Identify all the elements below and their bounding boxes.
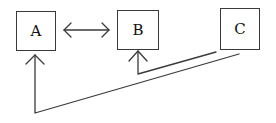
node-c-label: C <box>234 20 245 38</box>
node-c: C <box>220 8 260 50</box>
node-a: A <box>16 11 56 51</box>
edge-c-to-a-arrow <box>26 54 239 113</box>
node-b: B <box>117 10 159 50</box>
node-b-label: B <box>132 21 143 39</box>
node-a-label: A <box>31 22 42 40</box>
edge-a-b-double-arrow <box>64 23 109 37</box>
edge-c-to-b-arrow <box>129 51 216 74</box>
diagram-canvas: A B C <box>0 0 276 123</box>
